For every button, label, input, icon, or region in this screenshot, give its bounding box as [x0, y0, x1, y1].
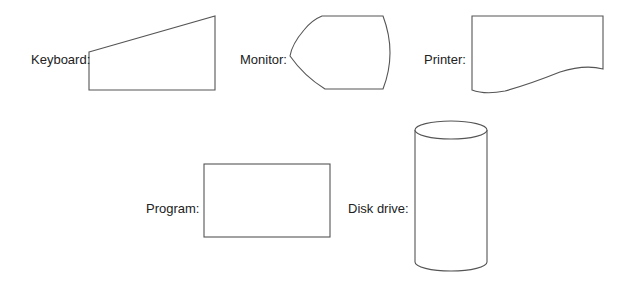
program-symbol — [204, 164, 330, 237]
program-label: Program: — [146, 201, 199, 217]
keyboard-symbol — [89, 16, 215, 90]
monitor-symbol — [290, 16, 390, 89]
monitor-label: Monitor: — [240, 52, 287, 68]
diagram-canvas — [0, 0, 633, 281]
printer-symbol — [472, 16, 603, 93]
keyboard-label: Keyboard: — [31, 52, 90, 68]
disk-drive-label: Disk drive: — [348, 201, 409, 217]
disk-drive-symbol — [415, 121, 487, 271]
printer-label: Printer: — [424, 52, 466, 68]
